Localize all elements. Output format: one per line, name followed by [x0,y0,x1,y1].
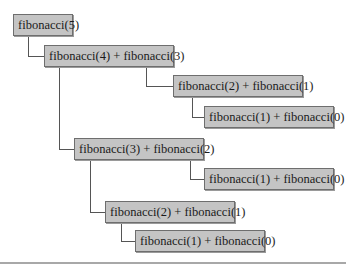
node-fib3-plus-fib2: fibonacci(3) + fibonacci(2) [74,138,204,160]
edge-n5-n7-h [90,212,105,213]
edge-n2-n5-h [59,149,74,150]
edge-n7-n8-h [121,241,135,242]
edge-n2-n3 [146,67,147,86]
edge-n2-n5 [59,67,60,149]
edge-n1-n2 [28,36,29,56]
node-fib4-plus-fib3: fibonacci(4) + fibonacci(3) [44,45,174,67]
node-fib5: fibonacci(5) [13,14,73,36]
edge-n1-n2-h [28,56,44,57]
edge-n5-n6-h [190,179,204,180]
node-fib2-plus-fib1-b: fibonacci(2) + fibonacci(1) [105,201,235,223]
bottom-rule [0,262,346,264]
node-fib1-plus-fib0-b: fibonacci(1) + fibonacci(0) [204,168,334,190]
edge-n5-n7 [90,160,91,212]
edge-n2-n3-h [146,86,173,87]
node-fib1-plus-fib0-c: fibonacci(1) + fibonacci(0) [135,230,265,252]
edge-n5-n6 [190,160,191,179]
edge-n7-n8 [121,222,122,241]
edge-n3-n4-h [192,117,204,118]
edge-n3-n4 [192,97,193,117]
node-fib2-plus-fib1-a: fibonacci(2) + fibonacci(1) [173,75,303,97]
node-fib1-plus-fib0-a: fibonacci(1) + fibonacci(0) [204,106,334,128]
